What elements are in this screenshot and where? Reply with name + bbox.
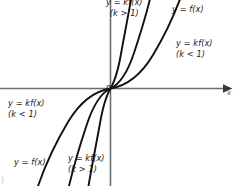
label-f-of-x-bottom: y = f(x) [14, 157, 46, 168]
x-axis-label: x [227, 89, 231, 97]
label-kf-k-greater-than-1-bottom: y = kf(x) (k > 1) [68, 153, 105, 174]
label-kf-k-greater-than-1-top: y = kf(x) (k > 1) [106, 0, 143, 18]
label-condition: (k < 1) [8, 109, 45, 120]
label-equation: y = kf(x) [68, 153, 105, 163]
corner-mark: ) [1, 176, 4, 185]
label-kf-k-less-than-1-left: y = kf(x) (k < 1) [8, 98, 45, 119]
stretch-transformation-figure: y = kf(x) (k > 1) y = f(x) y = kf(x) (k … [0, 0, 236, 186]
label-equation: y = kf(x) [8, 98, 45, 108]
label-equation: y = kf(x) [176, 38, 213, 48]
label-equation: y = f(x) [172, 4, 204, 14]
label-equation: y = f(x) [14, 157, 46, 167]
label-f-of-x-top: y = f(x) [172, 4, 204, 15]
label-condition: (k > 1) [106, 8, 143, 19]
label-kf-k-less-than-1-right: y = kf(x) (k < 1) [176, 38, 213, 59]
label-equation: y = kf(x) [106, 0, 143, 7]
origin-label: 0 [106, 84, 111, 94]
label-condition: (k < 1) [176, 49, 213, 60]
label-condition: (k > 1) [68, 164, 105, 175]
